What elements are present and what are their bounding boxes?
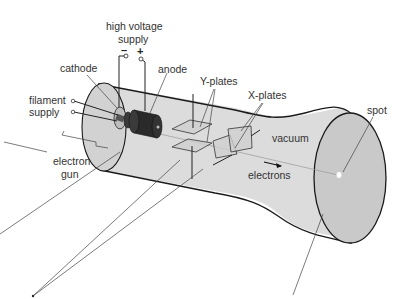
label-anode: anode	[158, 63, 187, 75]
crt-illustration: high voltage supply – + cathode anode fi…	[0, 0, 404, 299]
crt-diagram: high voltage supply – + cathode anode fi…	[0, 0, 404, 299]
label-negative: –	[121, 44, 127, 56]
leader-long-2	[33, 160, 180, 296]
screen	[314, 113, 386, 243]
label-filament-supply: supply	[29, 106, 60, 118]
label-high-voltage: high voltage	[106, 20, 163, 32]
label-y-plates: Y-plates	[200, 75, 238, 87]
leader-long-3	[33, 169, 203, 296]
label-filament: filament	[29, 94, 66, 106]
label-x-plates: X-plates	[248, 89, 287, 101]
label-electrons: electrons	[248, 169, 291, 181]
label-gun: gun	[61, 168, 79, 180]
x-plate-right	[228, 126, 252, 152]
label-spot: spot	[367, 104, 387, 116]
hv-positive-terminal	[139, 57, 143, 61]
screen-spot	[337, 172, 342, 178]
label-vacuum: vacuum	[272, 132, 309, 144]
label-cathode: cathode	[60, 62, 98, 74]
label-electron: electron	[53, 155, 91, 167]
label-positive: +	[137, 45, 143, 57]
tube-body	[100, 84, 352, 240]
